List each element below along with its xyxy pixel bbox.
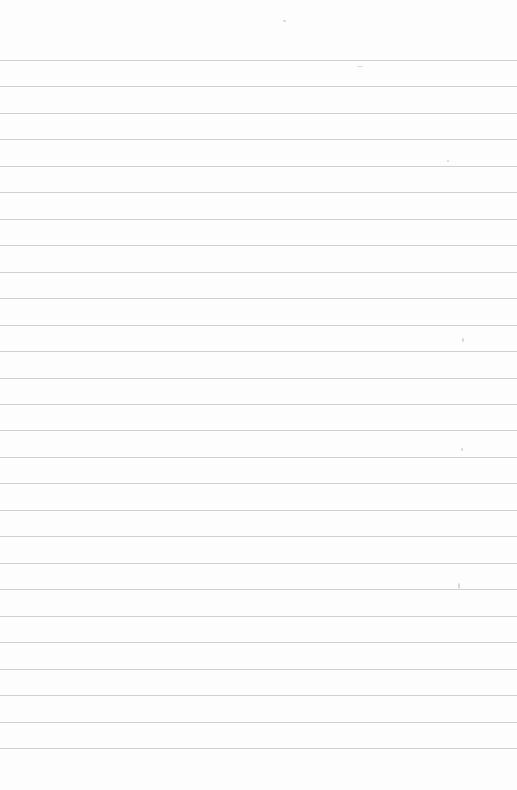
ruled-paper-sheet [0, 0, 517, 790]
paper-speck [283, 20, 286, 22]
ruled-line [0, 669, 517, 670]
ruled-line [0, 325, 517, 326]
paper-speck [462, 338, 464, 342]
ruled-line [0, 298, 517, 299]
paper-speck [357, 66, 363, 67]
ruled-line [0, 748, 517, 749]
ruled-line [0, 616, 517, 617]
ruled-line [0, 378, 517, 379]
paper-speck [461, 448, 463, 451]
ruled-line [0, 563, 517, 564]
ruled-line [0, 642, 517, 643]
ruled-line [0, 695, 517, 696]
ruled-line [0, 139, 517, 140]
paper-speck [447, 160, 449, 162]
ruled-line [0, 457, 517, 458]
ruled-line [0, 722, 517, 723]
ruled-line [0, 192, 517, 193]
ruled-line [0, 113, 517, 114]
ruled-line [0, 245, 517, 246]
ruled-line [0, 510, 517, 511]
ruled-line [0, 219, 517, 220]
ruled-line [0, 483, 517, 484]
ruled-line [0, 60, 517, 61]
ruled-line [0, 86, 517, 87]
ruled-line [0, 404, 517, 405]
ruled-line [0, 430, 517, 431]
ruled-line [0, 166, 517, 167]
ruled-line [0, 351, 517, 352]
ruled-line [0, 589, 517, 590]
ruled-line [0, 536, 517, 537]
ruled-line [0, 272, 517, 273]
